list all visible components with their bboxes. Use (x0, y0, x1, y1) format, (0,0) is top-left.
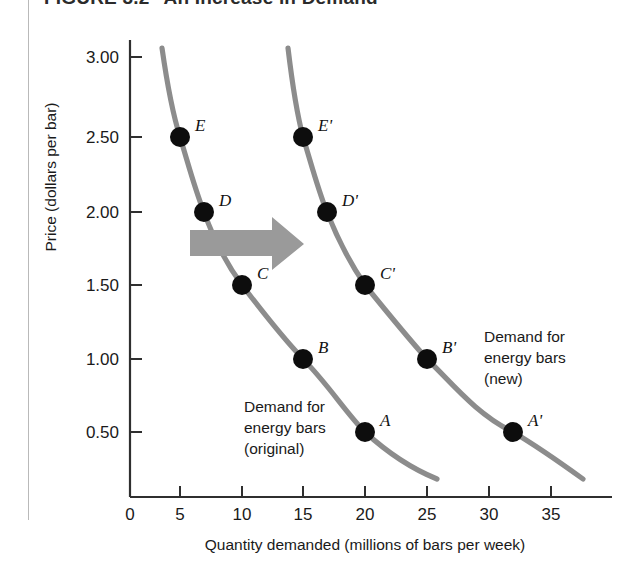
y-axis-ticks (130, 57, 142, 432)
data-point-A (355, 422, 375, 442)
demand-chart: 3.00 2.50 2.00 1.50 1.00 0.50 0 5 10 15 … (0, 0, 627, 577)
data-point-label-D: D (218, 191, 232, 210)
curve-legend-new-line2: energy bars (484, 349, 566, 366)
data-point-C-prime (355, 275, 375, 295)
data-point-D-prime (317, 202, 337, 222)
data-point-C (232, 275, 252, 295)
data-point-label-E-prime: E' (317, 116, 332, 135)
x-tick-label-35: 35 (542, 505, 561, 524)
curve-legend-new: Demand for energy bars (new) (484, 328, 566, 387)
y-tick-label-1.50: 1.50 (86, 276, 119, 295)
x-tick-label-30: 30 (480, 505, 499, 524)
x-tick-label-20: 20 (356, 505, 375, 524)
data-point-D (194, 202, 214, 222)
curve-legend-new-line1: Demand for (484, 328, 565, 345)
data-point-label-A-prime: A' (527, 411, 542, 430)
data-points-new (293, 127, 523, 442)
data-point-label-A: A (379, 411, 391, 430)
data-point-E-prime (293, 127, 313, 147)
curve-legend-original-line3: (original) (244, 440, 304, 457)
data-point-E (170, 127, 190, 147)
x-tick-label-25: 25 (418, 505, 437, 524)
data-point-A-prime (503, 422, 523, 442)
x-tick-label-10: 10 (233, 505, 252, 524)
x-tick-label-15: 15 (294, 505, 313, 524)
y-axis-tick-labels: 3.00 2.50 2.00 1.50 1.00 0.50 (86, 48, 119, 442)
y-tick-label-0.50: 0.50 (86, 423, 119, 442)
y-tick-label-2.00: 2.00 (86, 203, 119, 222)
data-point-label-B-prime: B' (442, 338, 456, 357)
data-point-B (293, 349, 313, 369)
curve-legend-original: Demand for energy bars (original) (244, 398, 326, 457)
x-tick-label-0: 0 (125, 505, 134, 524)
data-point-B-prime (417, 349, 437, 369)
x-axis-tick-labels: 0 5 10 15 20 25 30 35 (125, 505, 560, 524)
data-point-label-B: B (318, 338, 329, 357)
x-tick-label-5: 5 (175, 505, 184, 524)
data-point-label-D-prime: D' (341, 191, 358, 210)
curve-legend-original-line1: Demand for (244, 398, 325, 415)
curve-legend-original-line2: energy bars (244, 419, 326, 436)
data-point-labels-original: E D C B A (194, 116, 391, 430)
data-point-label-C-prime: C' (380, 264, 395, 283)
y-tick-label-2.50: 2.50 (86, 128, 119, 147)
x-axis-ticks (180, 486, 551, 497)
data-points-original (170, 127, 375, 442)
curve-legend-new-line3: (new) (484, 370, 523, 387)
y-tick-label-1.00: 1.00 (86, 350, 119, 369)
data-point-label-C: C (257, 264, 269, 283)
data-point-label-E: E (194, 116, 206, 135)
y-tick-label-3.00: 3.00 (86, 48, 119, 67)
